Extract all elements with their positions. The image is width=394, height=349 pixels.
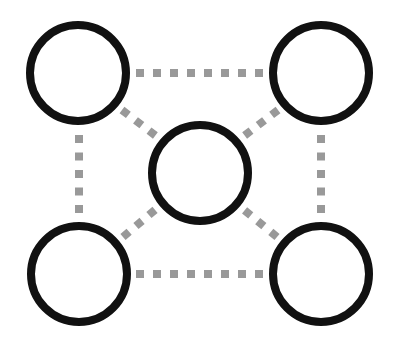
node-bottom-right bbox=[273, 226, 369, 322]
edge-top-right-to-center bbox=[244, 110, 278, 136]
edge-top-left-to-center bbox=[122, 110, 156, 136]
node-top-right bbox=[273, 25, 369, 121]
node-top-left bbox=[30, 25, 126, 121]
edge-bottom-left-to-center bbox=[123, 209, 156, 237]
node-bottom-left bbox=[31, 226, 127, 322]
network-diagram bbox=[0, 0, 394, 349]
node-center bbox=[152, 125, 248, 221]
edge-bottom-right-to-center bbox=[243, 209, 277, 237]
